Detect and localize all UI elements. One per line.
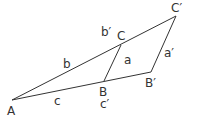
side-label-b-prime: b′: [101, 25, 112, 39]
segment-Bprime-Cprime: [151, 16, 176, 72]
point-label-C: C: [117, 29, 125, 43]
side-label-a: a: [124, 53, 131, 67]
point-label-C-prime: C′: [171, 1, 182, 15]
segment-A-Bprime: [12, 72, 151, 100]
side-label-c-prime: c′: [100, 97, 110, 111]
point-label-A: A: [7, 104, 16, 118]
point-label-B-prime: B′: [145, 76, 156, 90]
similar-triangles-diagram: A B B′ C C′ a a′ b b′ c c′: [0, 0, 197, 122]
side-label-a-prime: a′: [164, 46, 174, 60]
segment-B-C: [104, 45, 121, 81]
side-label-b: b: [63, 57, 71, 71]
side-label-c: c: [54, 94, 61, 108]
